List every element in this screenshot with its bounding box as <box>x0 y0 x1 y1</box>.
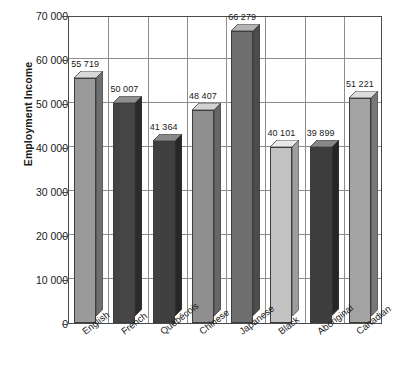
bar-front-face <box>113 103 135 323</box>
bar-black[interactable]: 40 101 <box>270 138 292 323</box>
y-axis-tick-label: 0 <box>8 318 68 330</box>
bar-top-face <box>231 24 260 31</box>
bar-front-face <box>310 147 332 323</box>
bar-top-face <box>74 71 103 78</box>
y-axis-tick-group: 010 00020 00030 00040 00050 00060 00070 … <box>0 16 68 324</box>
bar-english[interactable]: 55 719 <box>74 69 96 323</box>
y-axis-tick-label: 40 000 <box>8 142 68 154</box>
bar-side-face <box>292 140 299 316</box>
gridline-vertical <box>187 17 188 323</box>
gridline-vertical <box>305 17 306 323</box>
bar-top-face <box>270 140 299 147</box>
bar-top-face <box>349 91 378 98</box>
y-axis-tick-label: 10 000 <box>8 274 68 286</box>
gridline-vertical <box>265 17 266 323</box>
gridline-horizontal <box>69 58 381 59</box>
bar-value-label: 48 407 <box>189 91 217 101</box>
bar-side-face <box>175 134 182 316</box>
x-axis-tick-group: EnglishFrenchQuébécoisChineseJapaneseBla… <box>68 324 382 371</box>
bar-front-face <box>74 78 96 323</box>
y-axis-tick-label: 60 000 <box>8 54 68 66</box>
bar-value-label: 39 899 <box>307 128 335 138</box>
y-axis-tick-label: 20 000 <box>8 230 68 242</box>
bar-value-label: 66 279 <box>228 12 256 22</box>
bar-side-face <box>371 91 378 316</box>
bar-chinese[interactable]: 48 407 <box>192 101 214 323</box>
bar-side-face <box>253 24 260 316</box>
bar-value-label: 41 364 <box>150 122 178 132</box>
bar-front-face <box>349 98 371 323</box>
gridline-vertical <box>226 17 227 323</box>
bar-front-face <box>192 110 214 323</box>
bar-value-label: 51 221 <box>346 79 374 89</box>
bar-value-label: 40 101 <box>268 128 296 138</box>
bar-value-label: 55 719 <box>71 59 99 69</box>
bar-top-face <box>153 134 182 141</box>
gridline-vertical <box>148 17 149 323</box>
bar-side-face <box>332 140 339 316</box>
bar-side-face <box>214 103 221 316</box>
y-axis-tick-label: 70 000 <box>8 10 68 22</box>
bar-value-label: 50 007 <box>111 84 139 94</box>
y-axis-tick-label: 50 000 <box>8 98 68 110</box>
y-axis-tick-label: 30 000 <box>8 186 68 198</box>
bar-front-face <box>270 147 292 323</box>
bar-side-face <box>96 71 103 316</box>
bar-french[interactable]: 50 007 <box>113 94 135 323</box>
bar-top-face <box>113 96 142 103</box>
bar-qu-b-cois[interactable]: 41 364 <box>153 132 175 323</box>
gridline-vertical <box>108 17 109 323</box>
gridline-vertical <box>344 17 345 323</box>
bar-top-face <box>192 103 221 110</box>
bar-canadian[interactable]: 51 221 <box>349 89 371 323</box>
bar-side-face <box>135 96 142 316</box>
bar-front-face <box>153 141 175 323</box>
bar-front-face <box>231 31 253 323</box>
bar-top-face <box>310 140 339 147</box>
plot-area: 55 71950 00741 36448 40766 27940 10139 8… <box>68 16 382 324</box>
bar-japanese[interactable]: 66 279 <box>231 22 253 323</box>
bar-aboriginal[interactable]: 39 899 <box>310 138 332 323</box>
